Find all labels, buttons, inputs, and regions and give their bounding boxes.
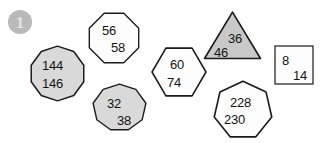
shape-number-bottom: 38 [117, 114, 131, 127]
shape-number-top: 56 [102, 24, 116, 37]
shape-number-bottom: 146 [42, 77, 63, 90]
shape-number-bottom: 230 [224, 113, 245, 126]
shape-square-8-14[interactable]: 8 14 [274, 45, 314, 85]
shape-number-top: 144 [42, 59, 63, 72]
exercise-number-label: 1 [16, 14, 25, 31]
shape-nonagon-32-38[interactable]: 32 38 [93, 83, 146, 136]
shape-hexagon-60-74[interactable]: 60 74 [150, 47, 208, 97]
shape-decagon-144-146[interactable]: 144 146 [29, 45, 86, 102]
shape-number-bottom: 46 [214, 46, 228, 59]
shape-heptagon-228-230[interactable]: 228 230 [213, 80, 273, 138]
shape-number-top: 8 [282, 54, 289, 67]
shape-triangle-36-46[interactable]: 36 46 [203, 11, 262, 60]
shape-number-top: 228 [230, 96, 251, 109]
shape-number-bottom: 58 [111, 41, 125, 54]
shape-number-top: 60 [170, 58, 184, 71]
shape-number-bottom: 14 [293, 69, 307, 82]
shape-number-bottom: 74 [167, 76, 181, 89]
shape-octagon-56-58[interactable]: 56 58 [88, 12, 140, 64]
shape-number-top: 36 [228, 32, 242, 45]
shape-number-top: 32 [107, 97, 121, 110]
worksheet-canvas: 1 144 146 56 58 32 38 [0, 0, 326, 143]
exercise-number-badge: 1 [8, 10, 32, 34]
